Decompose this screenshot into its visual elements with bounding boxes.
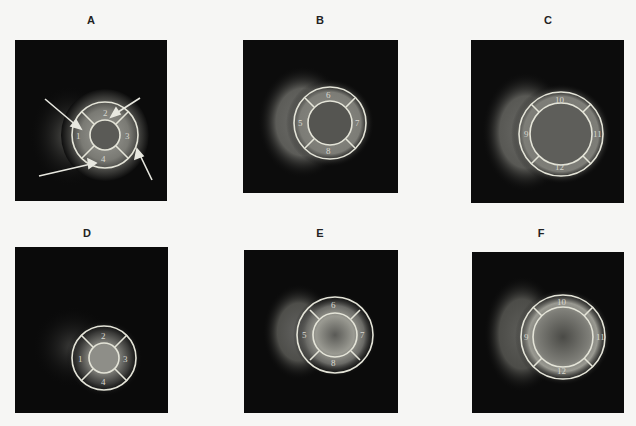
panel-label-a: A bbox=[81, 14, 101, 26]
panel-b-scan-image: 6 5 7 8 bbox=[243, 40, 398, 193]
segment-label-1: 1 bbox=[76, 131, 81, 141]
panel-c-svg: 10 9 11 12 bbox=[471, 40, 624, 203]
panel-b-svg: 6 5 7 8 bbox=[243, 40, 398, 193]
segment-label-9: 9 bbox=[524, 129, 529, 139]
segment-label-5: 5 bbox=[302, 330, 307, 340]
segment-label-7: 7 bbox=[360, 330, 365, 340]
segment-label-10: 10 bbox=[555, 95, 565, 105]
segment-label-2: 2 bbox=[103, 108, 108, 118]
panel-label-b: B bbox=[310, 14, 330, 26]
segment-label-7: 7 bbox=[355, 118, 360, 128]
panel-label-e: E bbox=[310, 227, 330, 239]
panel-e-scan-image: 6 5 7 8 bbox=[244, 250, 398, 413]
panel-d-scan-image: 2 1 3 4 bbox=[15, 247, 168, 413]
panel-a-svg: 2 1 3 4 bbox=[15, 40, 167, 201]
panel-d-svg: 2 1 3 4 bbox=[15, 247, 168, 413]
panel-f-svg: 10 9 11 12 bbox=[472, 252, 624, 413]
panel-a-scan-image: 2 1 3 4 bbox=[15, 40, 167, 201]
segment-label-11: 11 bbox=[593, 129, 602, 139]
segment-label-1: 1 bbox=[78, 354, 83, 364]
segment-label-12: 12 bbox=[557, 366, 566, 376]
segment-label-8: 8 bbox=[331, 358, 336, 368]
segment-label-6: 6 bbox=[326, 90, 331, 100]
panel-f-scan-image: 10 9 11 12 bbox=[472, 252, 624, 413]
segment-label-4: 4 bbox=[101, 154, 106, 164]
segment-label-3: 3 bbox=[123, 354, 128, 364]
panel-c-scan-image: 10 9 11 12 bbox=[471, 40, 624, 203]
segment-label-6: 6 bbox=[331, 300, 336, 310]
segment-label-8: 8 bbox=[326, 146, 331, 156]
panel-label-d: D bbox=[77, 227, 97, 239]
segment-label-10: 10 bbox=[557, 297, 567, 307]
segment-label-12: 12 bbox=[555, 162, 564, 172]
segment-label-5: 5 bbox=[298, 118, 303, 128]
panel-e-svg: 6 5 7 8 bbox=[244, 250, 398, 413]
segment-label-9: 9 bbox=[524, 332, 529, 342]
segment-label-3: 3 bbox=[125, 131, 130, 141]
panel-label-f: F bbox=[531, 227, 551, 239]
segment-label-11: 11 bbox=[596, 332, 605, 342]
panel-label-c: C bbox=[538, 14, 558, 26]
segment-label-4: 4 bbox=[101, 377, 106, 387]
segment-label-2: 2 bbox=[101, 331, 106, 341]
